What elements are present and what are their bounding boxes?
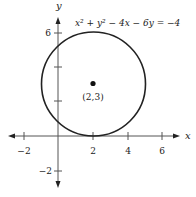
x-axis-left-arrow-icon — [8, 134, 15, 139]
x-tick-label-6: 6 — [159, 146, 165, 156]
x-tick-label-neg2: −2 — [17, 146, 30, 156]
center-label: (2,3) — [82, 92, 103, 102]
center-point — [90, 81, 95, 86]
y-tick-label-6: 6 — [45, 28, 51, 38]
x-tick-label-2: 2 — [90, 146, 96, 156]
x-tick-label-4: 4 — [125, 146, 131, 156]
y-axis-label: y — [55, 0, 62, 11]
y-tick-label-neg2: −2 — [39, 166, 52, 176]
circle-graph: y x x² + y² − 4x − 6y = −4 (2,3) −2 2 4 … — [0, 0, 196, 197]
y-axis-up-arrow-icon — [56, 17, 61, 24]
x-axis-right-arrow-icon — [173, 134, 180, 139]
x-axis-label: x — [185, 130, 191, 141]
equation-label: x² + y² − 4x − 6y = −4 — [75, 18, 181, 28]
axes — [12, 21, 176, 184]
y-axis-down-arrow-icon — [56, 181, 61, 188]
